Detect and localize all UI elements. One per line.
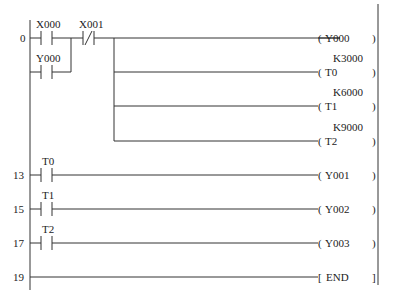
- step-number: 17: [13, 237, 25, 249]
- coil-open-t0: (: [318, 66, 322, 79]
- contact-label-t0: T0: [42, 155, 55, 167]
- step-number: 15: [13, 203, 25, 215]
- end-instruction: END: [326, 271, 349, 283]
- coil-label-t0: T0: [325, 66, 338, 78]
- coil-close-y003: ): [372, 237, 376, 250]
- end-open-bracket: [: [318, 271, 322, 283]
- coil-open-y001: (: [318, 169, 322, 182]
- coil-open-t1: (: [318, 100, 322, 113]
- step-number: 0: [20, 32, 26, 44]
- coil-label-t2: T2: [325, 135, 337, 147]
- ladder-diagram: ( ) ( ) ( ) ( ) ( ) ( ) ( ) [ ] 0 13 15 …: [0, 0, 396, 303]
- timer-constant-t1: K6000: [333, 86, 363, 98]
- coil-close-y000: ): [372, 32, 376, 45]
- coil-close-t0: ): [372, 66, 376, 79]
- contact-label-t1: T1: [42, 189, 54, 201]
- contact-label-t2: T2: [42, 223, 54, 235]
- coil-close-t2: ): [372, 135, 376, 148]
- coil-close-y001: ): [372, 169, 376, 182]
- coil-close-y002: ): [372, 203, 376, 216]
- contact-label-y000: Y000: [36, 52, 61, 64]
- contact-label-x000: X000: [36, 18, 61, 30]
- coil-open-y002: (: [318, 203, 322, 216]
- step-number: 19: [13, 271, 25, 283]
- timer-constant-t2: K9000: [333, 121, 363, 133]
- coil-label-y002: Y002: [325, 203, 349, 215]
- contact-label-x001: X001: [79, 18, 103, 30]
- coil-label-y001: Y001: [325, 169, 349, 181]
- coil-label-t1: T1: [325, 100, 337, 112]
- coil-open-t2: (: [318, 135, 322, 148]
- coil-open-y003: (: [318, 237, 322, 250]
- coil-label-y003: Y003: [325, 237, 350, 249]
- end-close-bracket: ]: [372, 271, 376, 283]
- step-number: 13: [13, 169, 25, 181]
- coil-close-t1: ): [372, 100, 376, 113]
- timer-constant-t0: K3000: [333, 52, 363, 64]
- coil-label-y000: Y000: [325, 32, 350, 44]
